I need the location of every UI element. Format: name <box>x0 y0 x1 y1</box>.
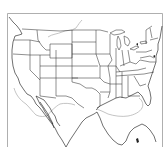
us-outline-map: United States state outline map <box>0 0 165 147</box>
lake-michigan <box>117 36 121 50</box>
lake-huron <box>124 36 130 46</box>
state-boundaries <box>13 26 158 110</box>
offshore-contour-west <box>14 88 75 117</box>
lake-superior <box>110 30 125 35</box>
gulf-of-california-coast <box>36 96 60 128</box>
map-canvas <box>0 0 165 147</box>
coastline <box>9 17 162 147</box>
dark-coastal-detail-northeast <box>136 43 138 46</box>
map-frame <box>8 14 163 148</box>
lake-erie <box>130 46 139 50</box>
offshore-contour-north <box>48 20 82 37</box>
gulf-contour <box>96 98 143 116</box>
dark-coastal-detail-yucatan <box>136 138 139 143</box>
